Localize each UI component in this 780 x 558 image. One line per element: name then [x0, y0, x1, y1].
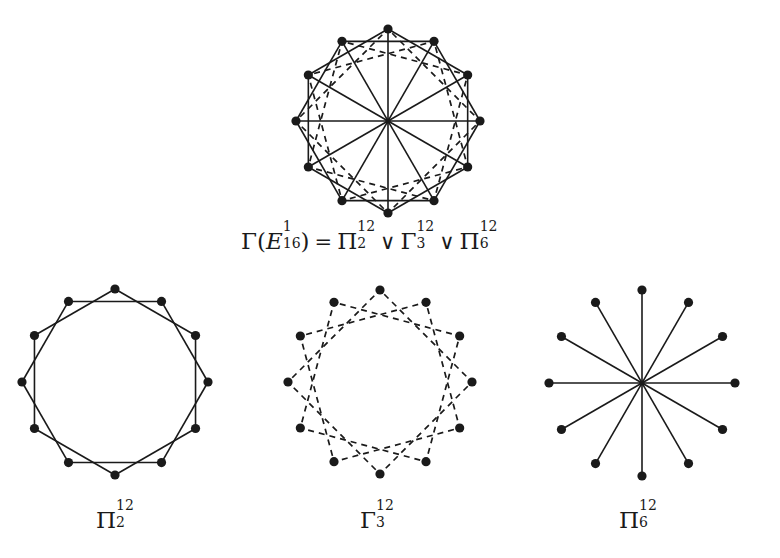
- caption-pi6: Π126: [619, 508, 657, 536]
- vertex: [383, 24, 392, 33]
- e-superscript: 1: [283, 219, 301, 233]
- pi-symbol: Π: [619, 507, 639, 533]
- vertex: [557, 332, 566, 341]
- gamma-symbol: Γ: [400, 228, 416, 254]
- pi-symbol: Π: [337, 228, 357, 254]
- graph-pi2: [17, 284, 212, 479]
- edge-gamma3: [306, 304, 420, 335]
- vertex: [375, 469, 384, 478]
- edge-gamma3: [310, 47, 341, 161]
- vertex: [475, 116, 484, 125]
- vertex: [203, 377, 212, 386]
- pi2-subscript: 2: [357, 236, 375, 250]
- equals-sign: =: [310, 230, 338, 254]
- edge-gamma3: [340, 430, 454, 461]
- vertex: [557, 425, 566, 434]
- subscript: 2: [116, 515, 134, 529]
- vertex: [110, 284, 119, 293]
- vertex: [191, 331, 200, 340]
- vertex: [455, 423, 464, 432]
- edge-pi2: [22, 382, 69, 463]
- vertex: [591, 298, 600, 307]
- vertex: [17, 377, 26, 386]
- vertex: [191, 424, 200, 433]
- e-scripts: 116: [283, 229, 301, 257]
- gamma-symbol: Γ: [360, 507, 376, 533]
- caption-gamma3: Γ123: [360, 508, 394, 536]
- graph-figure: [0, 0, 780, 558]
- vertex: [637, 285, 646, 294]
- edge-pi2: [162, 301, 209, 382]
- edge-gamma3: [310, 81, 341, 195]
- edge-pi2: [34, 429, 115, 476]
- vertex: [64, 458, 73, 467]
- superscript: 12: [639, 498, 657, 512]
- vertex: [110, 470, 119, 479]
- edge-gamma3: [436, 47, 467, 161]
- vertex: [383, 208, 392, 217]
- vertex: [157, 297, 166, 306]
- edge-gamma3: [314, 169, 428, 200]
- vertex: [684, 459, 693, 468]
- gamma3-subscript: 3: [416, 236, 434, 250]
- edge-gamma3: [348, 43, 462, 74]
- vertex: [329, 298, 338, 307]
- e-symbol: E: [266, 228, 283, 254]
- vertex: [429, 196, 438, 205]
- vertex: [421, 457, 430, 466]
- edge-pi2: [162, 382, 209, 463]
- gamma-symbol: Γ: [241, 228, 257, 254]
- edge-gamma3: [302, 308, 333, 422]
- caption-union-formula: Γ(E116)=Π122∨Γ123∨Π126: [241, 229, 498, 257]
- center-point: [640, 381, 645, 386]
- vertex: [375, 285, 384, 294]
- vertex: [467, 377, 476, 386]
- vertex: [421, 298, 430, 307]
- vertex: [296, 331, 305, 340]
- edge-gamma3: [436, 81, 467, 195]
- edge-pi2: [34, 289, 115, 336]
- graph-union-e16: [291, 24, 484, 217]
- graph-pi6: [544, 285, 739, 480]
- gamma3-scripts: 123: [376, 508, 394, 536]
- vertex: [30, 331, 39, 340]
- close-paren: ): [301, 228, 310, 254]
- vertex: [30, 424, 39, 433]
- subscript: 6: [639, 515, 657, 529]
- pi2-scripts: 122: [116, 508, 134, 536]
- vertex: [337, 37, 346, 46]
- edge-gamma3: [306, 430, 420, 461]
- vertex: [296, 423, 305, 432]
- vee-operator: ∨: [434, 230, 459, 254]
- pi-symbol: Π: [460, 228, 480, 254]
- vertex: [64, 297, 73, 306]
- edge-gamma3: [348, 169, 462, 200]
- vertex: [718, 425, 727, 434]
- vertex: [304, 70, 313, 79]
- gamma3-scripts: 123: [416, 229, 434, 257]
- center-point: [386, 119, 391, 124]
- edge-pi2: [115, 289, 196, 336]
- edge-gamma3: [428, 308, 459, 422]
- vertex: [157, 458, 166, 467]
- superscript: 12: [116, 498, 134, 512]
- superscript: 12: [376, 498, 394, 512]
- vertex: [455, 331, 464, 340]
- pi6-superscript: 12: [480, 219, 498, 233]
- edge-gamma3: [302, 342, 333, 456]
- vertex: [304, 162, 313, 171]
- edge-gamma3: [428, 342, 459, 456]
- pi6-scripts: 126: [639, 508, 657, 536]
- vertex: [337, 196, 346, 205]
- vertex: [329, 457, 338, 466]
- subscript: 3: [376, 515, 394, 529]
- pi2-superscript: 12: [357, 219, 375, 233]
- graph-gamma3: [283, 285, 476, 478]
- open-paren: (: [257, 228, 266, 254]
- vertex: [684, 298, 693, 307]
- pi6-scripts: 126: [480, 229, 498, 257]
- vertex: [291, 116, 300, 125]
- edge-gamma3: [340, 304, 454, 335]
- vertex: [637, 471, 646, 480]
- edge-pi2: [22, 301, 69, 382]
